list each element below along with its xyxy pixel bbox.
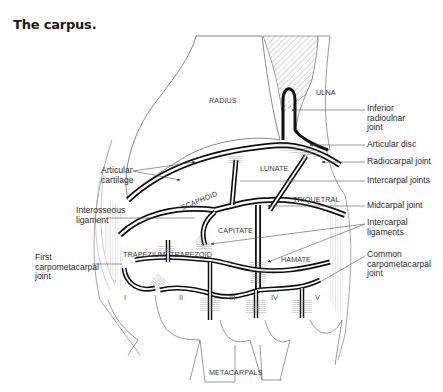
bone-label-lunate: LUNATE bbox=[260, 164, 288, 173]
label-inferior-radioulnar-joint: Inferior radioulnar joint bbox=[367, 104, 405, 133]
bone-label-metacarpals: METACARPALS bbox=[209, 368, 263, 377]
metacarpal-numeral-4: IV bbox=[271, 293, 278, 302]
label-intercarpal-joints: Intercarpal joints bbox=[367, 176, 430, 186]
carpus-diagram bbox=[0, 0, 443, 392]
label-radiocarpal-joint: Radiocarpal joint bbox=[367, 157, 431, 167]
label-intercarpal-ligaments: Intercarpal ligaments bbox=[367, 218, 408, 237]
bone-label-ulna: ULNA bbox=[316, 88, 336, 97]
bone-label-trapezoid: TRAPEZOID bbox=[170, 250, 212, 259]
label-first-carpometacarpal-joint: First carpometacarpal joint bbox=[35, 253, 99, 282]
metacarpal-numeral-3: III bbox=[229, 293, 235, 302]
label-articular-disc: Articular disc bbox=[367, 140, 416, 150]
bone-label-radius: RADIUS bbox=[209, 96, 237, 105]
label-articular-cartilage: Articular cartilage bbox=[101, 166, 133, 185]
bone-label-triquetral: TRIQUETRAL bbox=[293, 195, 340, 204]
bone-label-hamate: HAMATE bbox=[281, 255, 311, 264]
radius-bone bbox=[126, 36, 280, 200]
bone-label-trapezium: TRAPEZIUM bbox=[123, 250, 165, 259]
label-interosseous-ligament: Interosseous ligament bbox=[76, 206, 125, 225]
metacarpal-numeral-1: I bbox=[124, 293, 126, 302]
bone-label-capitate: CAPITATE bbox=[218, 226, 253, 235]
metacarpal-numeral-2: II bbox=[179, 293, 183, 302]
metacarpal-numeral-5: V bbox=[315, 293, 320, 302]
label-common-carpometacarpal-joint: Common carpometacarpal joint bbox=[367, 250, 431, 279]
label-midcarpal-joint: Midcarpal joint bbox=[367, 201, 422, 211]
